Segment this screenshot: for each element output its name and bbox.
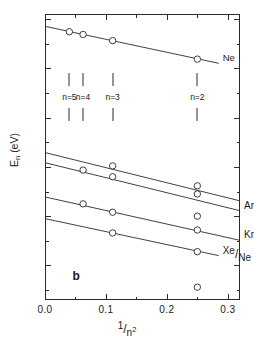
figure-panel-b: En (eV) 1/n2 1214161820220.00.10.20.3 n=… <box>0 0 254 343</box>
data-point-marker <box>109 37 115 43</box>
series-label-xe-ne: Xe/Ne <box>223 245 251 263</box>
x-tick-label: 0.2 <box>159 304 174 315</box>
outlier-point-marker <box>194 213 200 219</box>
data-point-marker <box>66 29 72 35</box>
panel-label: b <box>72 269 79 283</box>
data-point-marker <box>109 163 115 169</box>
data-layer <box>45 14 240 300</box>
data-point-marker <box>194 191 200 197</box>
data-point-marker <box>109 209 115 215</box>
data-point-marker <box>194 183 200 189</box>
data-point-marker <box>80 201 86 207</box>
data-point-marker <box>194 227 200 233</box>
data-point-marker <box>194 248 200 254</box>
fit-line <box>45 153 240 201</box>
outlier-point-marker <box>194 284 200 290</box>
x-tick-label: 0.3 <box>220 304 235 315</box>
data-point-marker <box>109 230 115 236</box>
data-point-marker <box>80 31 86 37</box>
x-tick-label: 0.1 <box>98 304 113 315</box>
plot-area: 1214161820220.00.10.20.3 n=5n=4n=3n=2 Ne… <box>45 14 240 300</box>
series-label-ne: Ne <box>223 52 235 63</box>
y-axis-title: En (eV) <box>8 133 22 167</box>
x-tick-label: 0.0 <box>37 304 52 315</box>
data-point-marker <box>109 174 115 180</box>
series-label-ar-ne: Ar/Ne <box>244 200 254 218</box>
data-point-marker <box>194 56 200 62</box>
fit-line <box>45 219 219 256</box>
data-point-marker <box>80 167 86 173</box>
x-axis-title: 1/n2 <box>118 320 137 338</box>
